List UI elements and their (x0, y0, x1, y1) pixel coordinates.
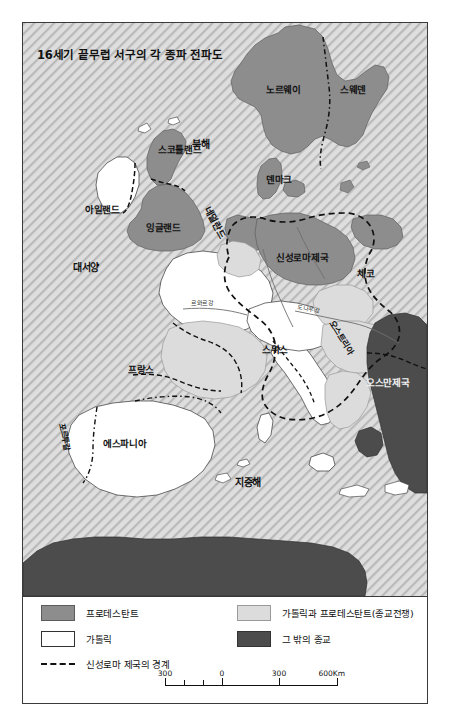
scale-bar-line (165, 685, 337, 686)
map-label-england: 잉글랜드 (146, 223, 181, 233)
legend-label-catholic: 가톨릭 (86, 632, 112, 646)
legend-label-protestant: 프로테스탄트 (86, 606, 138, 620)
map-label-mediterranean-sea: 지중해 (235, 478, 261, 488)
scale-tick-label-0: 0 (220, 669, 225, 678)
legend-swatch-hre-boundary (41, 663, 75, 665)
map-label-scotland: 스코틀랜드 (158, 145, 202, 155)
legend-swatch-catholic (41, 631, 75, 647)
scale-tick-0 (165, 678, 166, 686)
figure-frame: 16세기 끝무렵 서구의 각 종파 전파도 노르웨이 스웨덴 북해 스코틀랜드 … (22, 22, 428, 704)
legend-item-catholic: 가톨릭 (41, 631, 112, 647)
legend-swatch-mixed (237, 605, 271, 621)
legend: 프로테스탄트 가톨릭 가톨릭과 프로테스탄트(종교전쟁) 그 밖의 종교 신성로… (23, 596, 427, 703)
map-title: 16세기 끝무렵 서구의 각 종파 전파도 (37, 46, 223, 62)
map-label-sweden: 스웨덴 (340, 85, 366, 95)
map-label-loire-river: 르와르강 (191, 300, 214, 306)
scale-tick-label-300-left: 300 (158, 669, 172, 678)
map-figure: 16세기 끝무렵 서구의 각 종파 전파도 노르웨이 스웨덴 북해 스코틀랜드 … (0, 0, 452, 726)
map-label-czech: 체코 (357, 269, 374, 279)
scale-bar: 300 0 300 600Km (151, 669, 351, 695)
scale-tick-5 (337, 678, 338, 686)
scale-tick-3 (222, 678, 223, 686)
map-label-norway: 노르웨이 (266, 85, 301, 95)
scale-tick-2 (203, 680, 204, 686)
legend-label-mixed: 가톨릭과 프로테스탄트(종교전쟁) (282, 606, 413, 620)
map-label-ireland: 아일랜드 (85, 205, 120, 215)
scale-tick-4 (279, 678, 280, 686)
legend-swatch-protestant (41, 605, 75, 621)
legend-swatch-other-religion (237, 631, 271, 647)
scale-tick-label-600km: 600Km (318, 669, 345, 678)
legend-item-mixed: 가톨릭과 프로테스탄트(종교전쟁) (237, 605, 413, 621)
scale-tick-1 (184, 680, 185, 686)
legend-label-other-religion: 그 밖의 종교 (282, 632, 331, 646)
map-label-ottoman-empire: 오스만제국 (366, 378, 410, 388)
legend-item-protestant: 프로테스탄트 (41, 605, 138, 621)
region-north-africa-other (23, 537, 367, 596)
map-graphic (23, 23, 427, 596)
map-label-holy-roman-empire: 신성로마제국 (276, 253, 328, 263)
map-label-spain: 에스파니아 (103, 439, 147, 449)
map-label-switzerland: 스위스 (262, 345, 288, 355)
map-label-denmark: 덴마크 (266, 175, 292, 185)
legend-item-other-religion: 그 밖의 종교 (237, 631, 331, 647)
scale-tick-label-300-right: 300 (272, 669, 286, 678)
map-label-france: 프랑스 (128, 365, 154, 375)
map-panel: 16세기 끝무렵 서구의 각 종파 전파도 노르웨이 스웨덴 북해 스코틀랜드 … (23, 23, 427, 596)
map-label-atlantic-ocean: 대서양 (73, 263, 99, 273)
